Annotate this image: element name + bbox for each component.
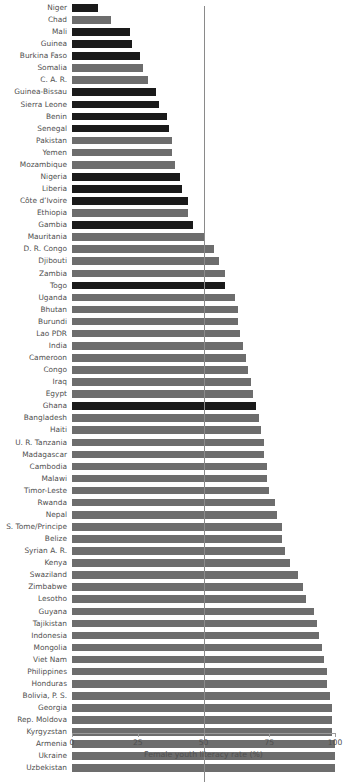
x-axis-tick-label: 25: [133, 738, 143, 748]
bar: [72, 644, 322, 652]
bar: [72, 64, 143, 72]
country-label: Guinea: [0, 38, 67, 50]
country-label: Mongolia: [0, 642, 67, 654]
country-label: Indonesia: [0, 630, 67, 642]
country-label: Sierra Leone: [0, 99, 67, 111]
x-axis-tick: [72, 733, 73, 737]
country-label: Bhutan: [0, 304, 67, 316]
country-label: Cambodia: [0, 461, 67, 473]
country-label: S. Tome/Principe: [0, 521, 67, 533]
country-label: Ukraine: [0, 750, 67, 762]
country-label: Zambia: [0, 268, 67, 280]
country-label: Zimbabwe: [0, 581, 67, 593]
x-axis: 0255075100 Female youth literacy rate (%…: [72, 733, 335, 760]
country-label: Somalia: [0, 62, 67, 74]
country-label: D. R. Congo: [0, 243, 67, 255]
bar: [72, 535, 282, 543]
country-label: U. R. Tanzania: [0, 437, 67, 449]
country-label: Philippines: [0, 666, 67, 678]
bar: [72, 620, 317, 628]
bar: [72, 76, 148, 84]
bar: [72, 656, 324, 664]
bar: [72, 523, 282, 531]
bar: [72, 318, 238, 326]
bar: [72, 439, 264, 447]
country-label: Ghana: [0, 400, 67, 412]
bar: [72, 16, 111, 24]
x-axis-tick: [269, 733, 270, 737]
country-label: Uzbekistan: [0, 762, 67, 774]
country-label: Egypt: [0, 388, 67, 400]
bar: [72, 149, 172, 157]
country-label: Togo: [0, 280, 67, 292]
bar: [72, 487, 269, 495]
country-label: Liberia: [0, 183, 67, 195]
country-label: Tajikistan: [0, 618, 67, 630]
bar: [72, 559, 290, 567]
country-label: Swaziland: [0, 569, 67, 581]
bar: [72, 668, 327, 676]
bar: [72, 330, 240, 338]
bar: [72, 173, 180, 181]
bar: [72, 547, 285, 555]
country-label: Djibouti: [0, 255, 67, 267]
bar: [72, 451, 264, 459]
bar: [72, 632, 319, 640]
bar: [72, 463, 267, 471]
country-label: Malawi: [0, 473, 67, 485]
bar: [72, 282, 225, 290]
country-label: Nigeria: [0, 171, 67, 183]
bar: [72, 354, 246, 362]
country-label: Mozambique: [0, 159, 67, 171]
bar: [72, 161, 175, 169]
bar: [72, 595, 306, 603]
country-label: Rep. Moldova: [0, 714, 67, 726]
bar: [72, 4, 98, 12]
x-axis-tick-label: 75: [264, 738, 274, 748]
country-label: Burkina Faso: [0, 50, 67, 62]
country-label: Madagascar: [0, 449, 67, 461]
country-label: Lesotho: [0, 593, 67, 605]
bar: [72, 306, 238, 314]
bar: [72, 414, 259, 422]
country-label: Timor-Leste: [0, 485, 67, 497]
country-label: Pakistan: [0, 135, 67, 147]
bar: [72, 571, 298, 579]
country-label: Viet Nam: [0, 654, 67, 666]
country-label: Iraq: [0, 376, 67, 388]
country-label: Syrian A. R.: [0, 545, 67, 557]
country-label: Benin: [0, 111, 67, 123]
x-axis-tick-label: 100: [328, 738, 343, 748]
bar: [72, 28, 130, 36]
country-label: Congo: [0, 364, 67, 376]
bar: [72, 511, 277, 519]
bar: [72, 342, 243, 350]
bar: [72, 704, 332, 712]
bar: [72, 88, 156, 96]
bar: [72, 197, 188, 205]
bar: [72, 426, 261, 434]
country-label: Senegal: [0, 123, 67, 135]
country-label: Yemen: [0, 147, 67, 159]
country-label: Bangladesh: [0, 412, 67, 424]
country-label: Lao PDR: [0, 328, 67, 340]
country-label: Belize: [0, 533, 67, 545]
country-label: Guinea-Bissau: [0, 86, 67, 98]
bar: [72, 221, 193, 229]
country-label: Haiti: [0, 424, 67, 436]
bar: [72, 680, 327, 688]
country-label: Niger: [0, 2, 67, 14]
bar: [72, 125, 169, 133]
country-label: Mali: [0, 26, 67, 38]
reference-line-50: [204, 6, 205, 782]
country-label: Cameroon: [0, 352, 67, 364]
bar: [72, 245, 214, 253]
bar: [72, 209, 188, 217]
country-label: Bolivia, P. S.: [0, 690, 67, 702]
country-label: Georgia: [0, 702, 67, 714]
country-label: Honduras: [0, 678, 67, 690]
x-axis-title: Female youth literacy rate (%): [72, 749, 335, 760]
country-label: Gambia: [0, 219, 67, 231]
country-label: Côte d’Ivoire: [0, 195, 67, 207]
